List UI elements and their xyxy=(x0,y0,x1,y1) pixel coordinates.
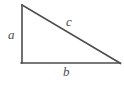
triangle-svg xyxy=(0,0,124,85)
side-label-a: a xyxy=(8,28,15,41)
side-label-b: b xyxy=(63,65,70,78)
side-label-c: c xyxy=(66,15,72,28)
right-triangle-diagram: a b c xyxy=(0,0,124,85)
